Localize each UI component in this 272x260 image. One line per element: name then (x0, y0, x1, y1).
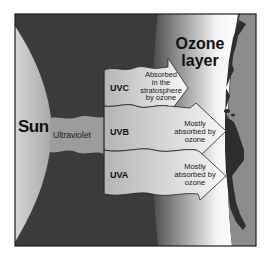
uvc-description: Absorbed in the stratosphere by ozone (132, 71, 190, 102)
island (231, 114, 235, 117)
island (224, 109, 230, 113)
uva-desc-line: ozone (167, 179, 223, 187)
ozone-layer-label: Ozone layer (170, 35, 230, 69)
uvc-label: UVC (110, 84, 129, 93)
uvb-desc-line: ozone (167, 136, 223, 144)
uvc-desc-line: by ozone (132, 94, 190, 102)
uva-description: Mostly absorbed by ozone (167, 163, 223, 186)
ozone-label-line2: layer (170, 52, 230, 69)
uva-label: UVA (110, 171, 128, 180)
uvb-label: UVB (110, 128, 129, 137)
uvb-description: Mostly absorbed by ozone (167, 120, 223, 143)
ultraviolet-label: Ultraviolet (53, 131, 91, 140)
ozone-label-line1: Ozone (170, 35, 230, 52)
sun-label: Sun (18, 118, 49, 135)
